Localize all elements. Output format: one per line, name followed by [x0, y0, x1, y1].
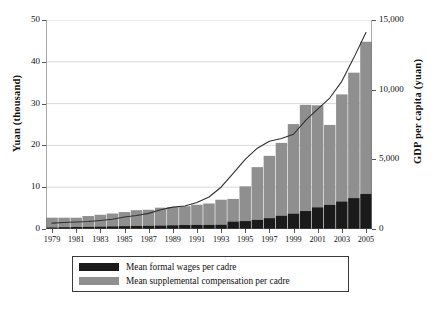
y-axis-left-title: Yuan (thousand) — [11, 54, 22, 174]
bar-supplemental — [264, 156, 275, 218]
x-axis-tick-mark — [100, 229, 101, 233]
bar-formal-wages — [276, 216, 287, 229]
x-axis-tick-label: 2005 — [351, 235, 381, 244]
x-axis-tick-mark — [294, 229, 295, 233]
y-axis-left-tick-mark — [42, 187, 46, 188]
bar-supplemental — [336, 94, 347, 201]
y-axis-right-tick-mark — [372, 20, 376, 21]
bar-supplemental — [360, 42, 371, 194]
bar-supplemental — [119, 212, 130, 226]
bar-formal-wages — [336, 201, 347, 229]
bar-formal-wages — [203, 225, 214, 229]
bar-formal-wages — [239, 221, 250, 229]
x-axis-tick-mark — [125, 229, 126, 233]
y-axis-left-tick-mark — [42, 104, 46, 105]
bar-supplemental — [276, 143, 287, 216]
y-axis-left-tick-label: 50 — [14, 14, 40, 24]
x-axis-tick-mark — [149, 229, 150, 233]
bar-formal-wages — [288, 214, 299, 229]
x-axis-tick-mark — [52, 229, 53, 233]
y-axis-left-tick-label: 40 — [14, 56, 40, 66]
bar-formal-wages — [155, 225, 166, 229]
bar-supplemental — [252, 167, 263, 220]
y-axis-left-tick-label: 10 — [14, 181, 40, 191]
y-axis-right-tick-label: 5,000 — [379, 153, 413, 163]
bar-formal-wages — [300, 211, 311, 229]
y-axis-right-tick-mark — [372, 229, 376, 230]
bar-supplemental — [203, 204, 214, 225]
bar-supplemental — [155, 208, 166, 226]
y-axis-left-tick-mark — [42, 229, 46, 230]
legend-swatch-supplemental — [79, 277, 119, 285]
x-axis-tick-mark — [269, 229, 270, 233]
legend-label-supplemental: Mean supplemental compensation per cadre — [126, 276, 290, 286]
y-axis-left-tick-mark — [42, 145, 46, 146]
bar-supplemental — [239, 186, 250, 221]
y-axis-left-tick-mark — [42, 20, 46, 21]
x-axis-tick-mark — [76, 229, 77, 233]
bar-formal-wages — [348, 198, 359, 229]
bar-supplemental — [324, 125, 335, 205]
bar-supplemental — [167, 207, 178, 225]
legend-item-supplemental: Mean supplemental compensation per cadre — [79, 274, 342, 288]
bar-formal-wages — [227, 221, 238, 229]
bar-supplemental — [215, 200, 226, 225]
x-axis-tick-mark — [342, 229, 343, 233]
plot-area — [46, 20, 372, 229]
y-axis-right-tick-label: 0 — [379, 223, 413, 233]
bar-formal-wages — [264, 218, 275, 229]
bar-formal-wages — [312, 207, 323, 229]
x-axis-tick-mark — [221, 229, 222, 233]
y-axis-right-title: GDP per capita (yuan) — [412, 52, 423, 172]
y-axis-left-tick-mark — [42, 62, 46, 63]
bar-supplemental — [179, 206, 190, 225]
x-axis-tick-mark — [245, 229, 246, 233]
bar-supplemental — [191, 205, 202, 225]
bar-supplemental — [312, 105, 323, 207]
bar-formal-wages — [179, 225, 190, 229]
bar-formal-wages — [252, 220, 263, 229]
y-axis-right-tick-label: 15,000 — [379, 14, 413, 24]
y-axis-right-tick-mark — [372, 90, 376, 91]
bar-formal-wages — [324, 205, 335, 229]
y-axis-right-tick-label: 10,000 — [379, 84, 413, 94]
y-axis-left-tick-label: 0 — [14, 223, 40, 233]
x-axis-tick-mark — [318, 229, 319, 233]
bar-supplemental — [348, 73, 359, 198]
legend-item-formal-wages: Mean formal wages per cadre — [79, 260, 342, 274]
bar-supplemental — [288, 124, 299, 213]
bar-formal-wages — [360, 194, 371, 229]
y-axis-left-tick-label: 20 — [14, 139, 40, 149]
y-axis-left-tick-label: 30 — [14, 98, 40, 108]
x-axis-tick-mark — [197, 229, 198, 233]
x-axis-tick-mark — [173, 229, 174, 233]
bar-supplemental — [227, 199, 238, 222]
legend-label-formal-wages: Mean formal wages per cadre — [126, 262, 236, 272]
chart-legend: Mean formal wages per cadre Mean supplem… — [72, 256, 349, 292]
bar-supplemental — [131, 210, 142, 226]
chart-figure: Yuan (thousand) GDP per capita (yuan) 01… — [0, 0, 433, 313]
legend-swatch-formal-wages — [79, 263, 119, 271]
chart-svg — [46, 20, 372, 229]
x-axis-tick-mark — [366, 229, 367, 233]
y-axis-right-tick-mark — [372, 159, 376, 160]
